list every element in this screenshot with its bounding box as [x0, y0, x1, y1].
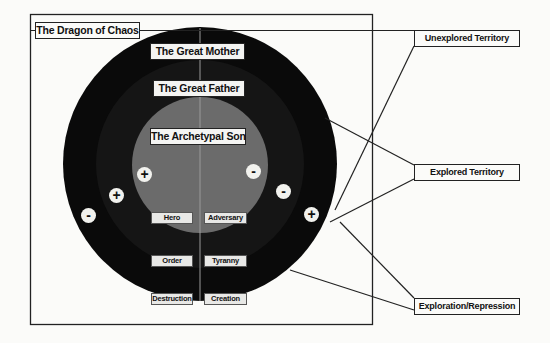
connector-explored-upper	[325, 118, 414, 165]
callout-unexplored-territory: Unexplored Territory	[414, 30, 520, 47]
label-creation: Creation	[204, 293, 247, 305]
diagram-title: The Dragon of Chaos	[35, 22, 140, 39]
connector-exploration-upper	[340, 222, 414, 298]
minus-icon: -	[81, 208, 96, 223]
label-adversary: Adversary	[204, 212, 247, 224]
plus-icon: +	[137, 167, 152, 182]
callout-explored-territory: Explored Territory	[414, 164, 520, 181]
label-great-father: The Great Father	[153, 80, 245, 97]
label-tyranny: Tyranny	[204, 255, 247, 267]
connector-exploration-lower	[290, 270, 414, 310]
label-order: Order	[151, 255, 193, 267]
label-hero: Hero	[151, 212, 193, 224]
plus-icon: +	[109, 188, 124, 203]
minus-icon: -	[276, 184, 291, 199]
plus-icon: +	[304, 207, 319, 222]
label-archetypal-son: The Archetypal Son	[150, 128, 246, 145]
label-destruction: Destruction	[151, 293, 193, 305]
callout-exploration-repression: Exploration/Repression	[414, 298, 520, 315]
label-great-mother: The Great Mother	[150, 43, 245, 60]
minus-icon: -	[246, 164, 261, 179]
